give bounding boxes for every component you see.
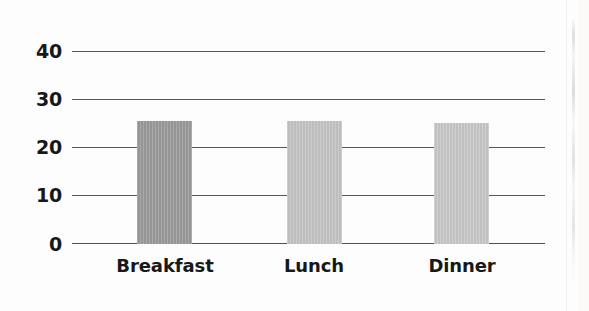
bar-lunch [287, 121, 342, 244]
y-axis-tick-0: 0 [6, 235, 62, 254]
bar-dinner [434, 123, 489, 244]
bar-texture [434, 123, 489, 244]
y-axis-tick-30: 30 [6, 90, 62, 109]
y-axis-tick-40: 40 [6, 42, 62, 61]
y-axis-tick-10: 10 [6, 186, 62, 205]
bar-texture [287, 121, 342, 244]
bar-breakfast [137, 121, 192, 244]
scan-page-margin [578, 0, 589, 311]
x-axis-label-breakfast: Breakfast [90, 255, 240, 277]
scan-speckle-artifact [572, 18, 575, 290]
plot-area [72, 51, 545, 244]
gridline-30 [72, 99, 545, 100]
y-axis: 40 30 20 10 0 [0, 0, 62, 311]
x-axis-label-dinner: Dinner [397, 255, 527, 277]
gridline-40 [72, 51, 545, 52]
y-axis-tick-20: 20 [6, 138, 62, 157]
bar-chart: 40 30 20 10 0 Breakfast Lunch Dinner [0, 0, 589, 311]
x-axis-label-lunch: Lunch [249, 255, 379, 277]
scan-edge-line [566, 0, 567, 311]
bar-texture [137, 121, 192, 244]
